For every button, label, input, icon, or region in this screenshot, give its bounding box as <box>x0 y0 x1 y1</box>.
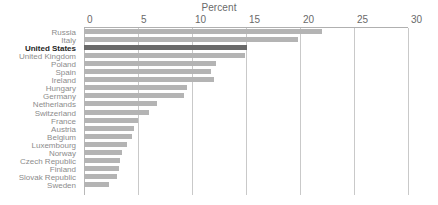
chart-title: Percent <box>0 2 438 13</box>
bar <box>84 53 245 58</box>
plot-area <box>84 28 408 195</box>
bar <box>84 134 132 139</box>
bar <box>84 142 127 147</box>
bar <box>84 29 322 34</box>
x-tick-label-0: 0 <box>87 14 93 25</box>
x-tick-label-25: 25 <box>357 14 368 25</box>
bar <box>84 158 120 163</box>
gridline-30 <box>408 28 409 195</box>
bar <box>84 77 214 82</box>
x-tick-label-15: 15 <box>249 14 260 25</box>
x-tick-label-20: 20 <box>303 14 314 25</box>
gridline-25 <box>354 28 355 195</box>
gridline-15 <box>246 28 247 195</box>
x-tick-label-30: 30 <box>411 14 422 25</box>
bar <box>84 85 187 90</box>
bar <box>84 37 298 42</box>
bar <box>84 110 149 115</box>
bar <box>84 174 117 179</box>
bar <box>84 126 134 131</box>
gridline-20 <box>300 28 301 195</box>
bar <box>84 118 138 123</box>
bar <box>84 166 119 171</box>
x-tick-label-10: 10 <box>195 14 206 25</box>
bar <box>84 182 109 187</box>
bar <box>84 150 122 155</box>
bar <box>84 93 184 98</box>
x-tick-label-5: 5 <box>141 14 147 25</box>
category-label: Sweden <box>47 181 76 190</box>
bar <box>84 69 211 74</box>
bar <box>84 101 157 106</box>
bar-chart: Percent 051015202530 RussiaItalyUnited S… <box>0 0 438 205</box>
category-label-column: RussiaItalyUnited StatesUnited KingdomPo… <box>0 28 80 195</box>
bar <box>84 45 247 50</box>
bar <box>84 61 216 66</box>
